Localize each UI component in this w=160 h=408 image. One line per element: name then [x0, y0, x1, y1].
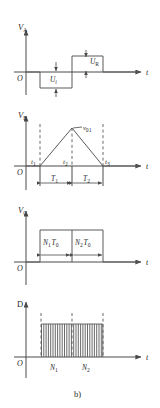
vb-origin-label: O	[17, 168, 23, 177]
panel-vb: VB O t v01 t1 t2 t3 T1 T2	[14, 110, 149, 190]
vb-T1-label: T1	[51, 174, 58, 184]
vc-time-label: t	[146, 258, 149, 267]
vc-origin-label: O	[17, 264, 23, 273]
d-origin-label: O	[17, 359, 23, 368]
vb-time-label: t	[146, 162, 149, 171]
vb-t2-label: t2	[63, 158, 68, 167]
d-axis-label: D	[17, 299, 23, 309]
va-ui-label: Ui	[50, 75, 57, 85]
d-n1-label: N1	[49, 363, 58, 373]
panel-d: D O t	[14, 299, 149, 378]
va-time-label: t	[146, 68, 149, 77]
va-axis-label: VA	[18, 22, 27, 33]
vc-axis-label: VC	[18, 205, 27, 216]
vb-t1-label: t1	[31, 158, 36, 167]
vc-n2t0-label: N2T0	[74, 238, 91, 248]
figure-caption: b)	[74, 389, 81, 399]
vb-vo1-label: v01	[83, 124, 92, 133]
vc-n1t0-label: N1T0	[42, 238, 59, 248]
vb-waveform	[26, 128, 140, 166]
panel-va: VA O t Ui UR	[14, 22, 149, 97]
vb-axis-label: VB	[18, 110, 27, 121]
d-time-label: t	[146, 353, 149, 362]
d-n2-label: N2	[81, 363, 90, 373]
figure-svg: VA O t Ui UR VB O t v01 t1 t2 t3	[0, 0, 160, 408]
panel-vc: VC O t N1T0 N2T0	[14, 205, 149, 285]
vb-t3-label: t3	[105, 158, 110, 167]
va-origin-label: O	[17, 74, 23, 83]
vb-vo1-leader	[73, 127, 82, 128]
va-ur-label: UR	[90, 57, 99, 67]
waveform-figure: VA O t Ui UR VB O t v01 t1 t2 t3	[0, 0, 160, 408]
vb-T2-label: T2	[83, 174, 90, 184]
d-pulse-train	[42, 324, 103, 357]
